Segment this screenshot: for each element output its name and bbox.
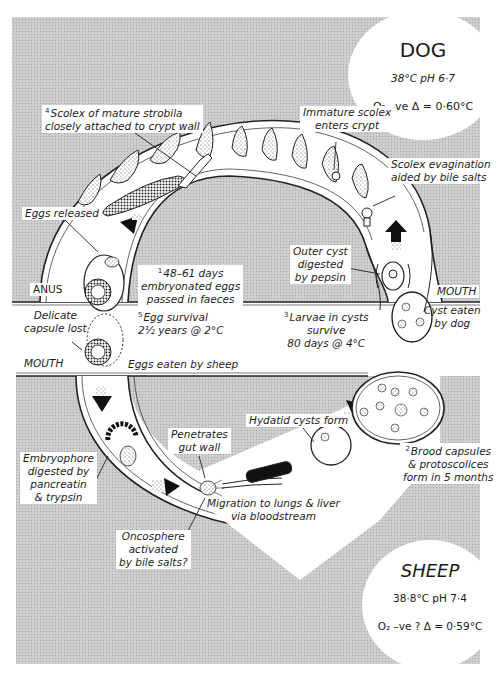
label-embryophore: Embryophore digested by pancreatin & try… bbox=[20, 452, 97, 504]
label-migration: Migration to lungs & liver via bloodstre… bbox=[207, 497, 340, 523]
scolex-evagination-figure bbox=[362, 208, 372, 226]
label-dog-mouth: MOUTH bbox=[434, 285, 479, 298]
label-eggs-released: Eggs released bbox=[22, 207, 102, 220]
label-penetrates-gut-wall: Penetrates gut wall bbox=[168, 428, 231, 454]
label-sheep-mouth: MOUTH bbox=[24, 357, 63, 370]
sheep-host-circle: SHEEP 38·8°C pH 7·4 O₂ –ve ? Δ = 0·59°C bbox=[362, 540, 498, 670]
sheep-oxygen-freezing-point: O₂ –ve ? Δ = 0·59°C bbox=[362, 620, 498, 632]
egg-in-capsule-figure bbox=[84, 255, 124, 311]
dog-temperature-ph: 38°C pH 6·7 bbox=[348, 72, 498, 84]
label-eggs-eaten: Eggs eaten by sheep bbox=[128, 358, 238, 371]
label-scolex-evagination: Scolex evagination aided by bile salts bbox=[388, 158, 494, 184]
label-egg-survival: 5Egg survival 2½ years @ 2°C bbox=[138, 309, 224, 337]
label-hydatid-cysts-form: Hydatid cysts form bbox=[246, 414, 351, 427]
label-brood-capsules: 2Brood capsules & protoscolices form in … bbox=[400, 443, 496, 484]
label-delicate-capsule: Delicate capsule lost bbox=[24, 309, 87, 335]
label-cyst-eaten: Cyst eaten by dog bbox=[424, 304, 481, 330]
sheep-title: SHEEP bbox=[362, 560, 498, 581]
label-eggs-passed: 148–61 days embryonated eggs passed in f… bbox=[138, 265, 243, 306]
mature-hydatid-cyst bbox=[352, 372, 444, 444]
label-scolex-mature: 4Scolex of mature strobila closely attac… bbox=[42, 105, 203, 133]
label-immature-scolex: Immature scolex enters crypt bbox=[300, 106, 394, 132]
label-oncosphere-activated: Oncosphere activated by bile salts? bbox=[116, 530, 191, 569]
label-outer-cyst-digested: Outer cyst digested by pepsin bbox=[290, 245, 351, 284]
developing-hydatid-cyst bbox=[311, 425, 351, 465]
label-anus: ANUS bbox=[30, 283, 65, 296]
dog-title: DOG bbox=[348, 38, 498, 62]
sheep-temperature-ph: 38·8°C pH 7·4 bbox=[362, 592, 498, 604]
label-larvae-survive: 3Larvae in cysts survive 80 days @ 4°C bbox=[284, 309, 368, 350]
